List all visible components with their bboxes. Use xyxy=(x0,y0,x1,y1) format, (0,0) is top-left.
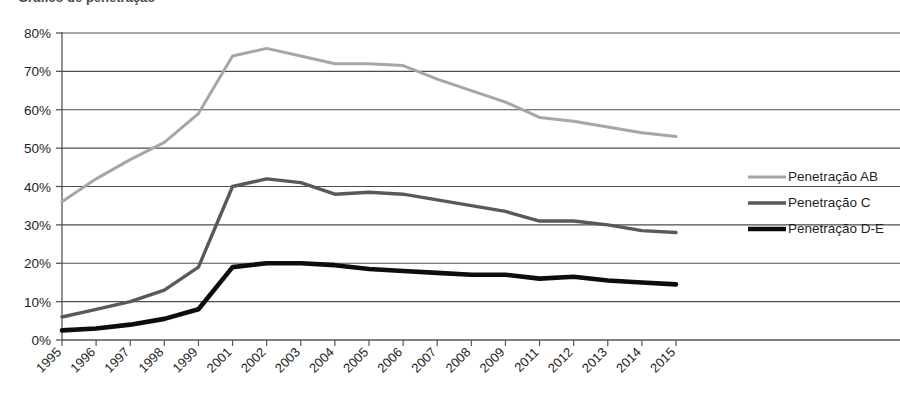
y-axis-tick-label: 10% xyxy=(24,295,51,310)
x-axis-tick-label: 1999 xyxy=(170,345,201,376)
x-axis-tick-label: 2013 xyxy=(579,345,610,376)
y-axis-tick-label: 50% xyxy=(24,141,51,156)
x-axis-tick-label: 2006 xyxy=(374,345,405,376)
x-axis-tick-label: 2014 xyxy=(613,345,644,376)
x-axis-tick-label: 2015 xyxy=(647,345,678,376)
x-axis-tick-label: 2005 xyxy=(340,345,371,376)
x-axis-tick-label: 2007 xyxy=(408,345,439,376)
gridlines-group xyxy=(62,33,900,302)
y-axis-ticks-group xyxy=(56,33,62,340)
y-axis-tick-label: 60% xyxy=(24,103,51,118)
x-axis-tick-label: 2004 xyxy=(306,345,337,376)
x-axis-tick-label: 2001 xyxy=(204,345,235,376)
x-axis-tick-label: 2008 xyxy=(442,345,473,376)
y-axis-tick-label: 30% xyxy=(24,218,51,233)
y-axis-tick-label: 40% xyxy=(24,180,51,195)
y-axis-tick-label: 20% xyxy=(24,256,51,271)
y-axis-labels-group: 0%10%20%30%40%50%60%70%80% xyxy=(24,26,51,348)
x-axis-tick-label: 2003 xyxy=(272,345,303,376)
x-axis-labels-group: 1995199619971998199920012002200320042005… xyxy=(33,345,678,376)
legend-group: Penetração ABPenetração CPenetração D-E xyxy=(748,169,884,236)
y-axis-tick-label: 70% xyxy=(24,64,51,79)
legend-label-1: Penetração C xyxy=(788,195,871,210)
legend-label-2: Penetração D-E xyxy=(788,221,884,236)
x-axis-tick-label: 2012 xyxy=(545,345,576,376)
x-axis-tick-label: 2002 xyxy=(238,345,269,376)
x-axis-tick-label: 2009 xyxy=(477,345,508,376)
series-line-penetra-o-c xyxy=(62,179,676,317)
series-line-penetra-o-d-e xyxy=(62,263,676,330)
x-axis-tick-label: 1997 xyxy=(101,345,132,376)
chart-container: Gráfico de penetração 0%10%20%30%40%50%6… xyxy=(0,0,900,407)
x-axis-tick-label: 1995 xyxy=(33,345,64,376)
x-axis-tick-label: 1998 xyxy=(135,345,166,376)
y-axis-tick-label: 80% xyxy=(24,26,51,41)
x-axis-tick-label: 2011 xyxy=(511,345,541,375)
y-axis-tick-label: 0% xyxy=(31,333,51,348)
line-chart-svg: 0%10%20%30%40%50%60%70%80% 1995199619971… xyxy=(0,0,900,407)
data-series-group xyxy=(62,48,676,330)
legend-label-0: Penetração AB xyxy=(788,169,878,184)
x-axis-tick-label: 1996 xyxy=(67,345,98,376)
